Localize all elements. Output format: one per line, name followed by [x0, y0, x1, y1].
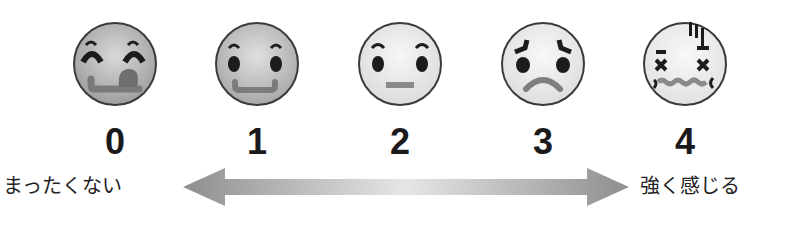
label-none-at-all: まったくない — [3, 171, 122, 201]
scale-value-4: 4 — [641, 122, 729, 162]
double-arrow-icon — [183, 167, 629, 207]
scale-value-1: 1 — [213, 122, 301, 162]
scale-value-2: 2 — [356, 122, 444, 162]
scale-value-0: 0 — [71, 122, 159, 162]
label-strongly-feel: 強く感じる — [640, 171, 740, 201]
face-4-distressed-icon — [641, 20, 729, 108]
scale-value-3: 3 — [499, 122, 587, 162]
face-2-neutral-icon — [356, 20, 444, 108]
face-1-smiling-icon — [213, 20, 301, 108]
face-3-sad-icon — [499, 20, 587, 108]
face-0-very-happy-icon — [71, 20, 159, 108]
